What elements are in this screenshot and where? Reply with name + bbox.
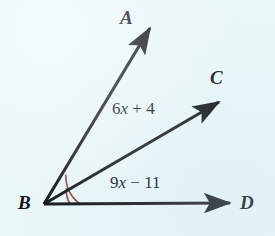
angle-measure-label-upper: 6x + 4 [112,100,155,117]
angle-diagram-figure: A B C D 6x + 4 9x − 11 [0,0,275,236]
lower-expr-variable: x [119,173,127,192]
angle-measure-label-lower: 9x − 11 [110,174,161,191]
lower-expr-operator: − [130,173,140,192]
point-label-A: A [120,8,133,27]
point-label-D: D [240,193,254,212]
upper-expr-constant: 4 [146,99,155,118]
upper-expr-operator: + [132,99,142,118]
lower-expr-constant: 11 [144,173,160,192]
lower-expr-coefficient: 9 [110,173,119,192]
point-label-B: B [18,193,31,212]
point-label-C: C [210,68,223,87]
upper-expr-coefficient: 6 [112,99,121,118]
upper-expr-variable: x [121,99,129,118]
ray-BD [44,203,230,204]
diagram-canvas [0,0,275,236]
